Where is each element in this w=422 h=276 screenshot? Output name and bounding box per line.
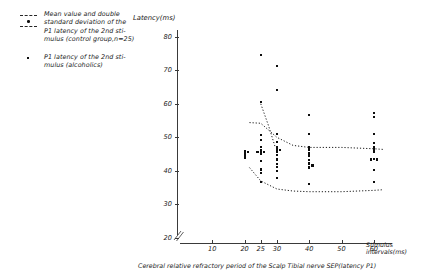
data-point (308, 159, 310, 161)
y-tick (175, 204, 179, 205)
confidence-band-line (249, 168, 383, 192)
data-point (311, 164, 313, 166)
x-tick (374, 240, 375, 244)
x-tick-label: 60 (364, 245, 384, 253)
data-point (244, 157, 246, 159)
data-point (373, 116, 375, 118)
data-point (260, 146, 262, 148)
data-point (373, 133, 375, 135)
data-point (276, 166, 278, 168)
data-point (260, 160, 262, 162)
data-point (260, 168, 262, 170)
data-point (276, 133, 278, 135)
data-point (308, 183, 310, 185)
x-tick (261, 240, 262, 244)
data-point (308, 133, 310, 135)
data-point (247, 151, 249, 153)
data-point (279, 149, 281, 151)
data-point (308, 166, 310, 168)
data-point (373, 181, 375, 183)
plot-area: Latency(ms) Stimulus intervals(ms) 20304… (0, 0, 422, 276)
x-tick (309, 240, 310, 244)
y-tick (175, 70, 179, 71)
figure-caption: Cerebral relative refractory period of t… (138, 262, 376, 269)
data-point (276, 170, 278, 172)
data-point (276, 89, 278, 91)
y-tick-label: 50 (150, 133, 172, 141)
x-tick (245, 240, 246, 244)
data-point (276, 65, 278, 67)
data-point (260, 54, 262, 56)
data-point (373, 112, 375, 114)
data-point (260, 152, 262, 154)
data-point (308, 162, 310, 164)
y-tick-label: 40 (150, 167, 172, 175)
x-tick-label: 40 (299, 245, 319, 253)
y-tick-label: 70 (150, 66, 172, 74)
data-point (260, 101, 262, 103)
data-point (308, 114, 310, 116)
data-point (276, 158, 278, 160)
y-tick (175, 171, 179, 172)
x-tick (277, 240, 278, 244)
data-point (263, 151, 265, 153)
data-point (276, 154, 278, 156)
data-point (260, 139, 262, 141)
data-point (260, 172, 262, 174)
data-point (373, 169, 375, 171)
confidence-band-line (249, 123, 383, 150)
y-tick (175, 137, 179, 138)
data-point (376, 158, 378, 160)
x-tick-label: 50 (332, 245, 352, 253)
x-tick (212, 240, 213, 244)
data-point (276, 177, 278, 179)
data-point (256, 151, 258, 153)
y-tick-label: 30 (150, 200, 172, 208)
data-point (370, 158, 372, 160)
x-tick (342, 240, 343, 244)
y-tick-label: 20 (150, 234, 172, 242)
data-point (260, 181, 262, 183)
data-point (373, 151, 375, 153)
confidence-bands (0, 0, 422, 276)
confidence-band-line (261, 104, 276, 148)
x-tick-label: 10 (202, 245, 222, 253)
data-point (276, 141, 278, 143)
data-point (373, 158, 375, 160)
y-tick-label: 60 (150, 100, 172, 108)
y-tick (175, 238, 179, 239)
y-tick (175, 104, 179, 105)
data-point (308, 154, 310, 156)
figure-scatter-plot: Mean value and double standard deviation… (0, 0, 422, 276)
x-tick-label: 30 (267, 245, 287, 253)
data-point (260, 134, 262, 136)
y-tick-label: 80 (150, 33, 172, 41)
y-tick (175, 37, 179, 38)
data-point (373, 142, 375, 144)
